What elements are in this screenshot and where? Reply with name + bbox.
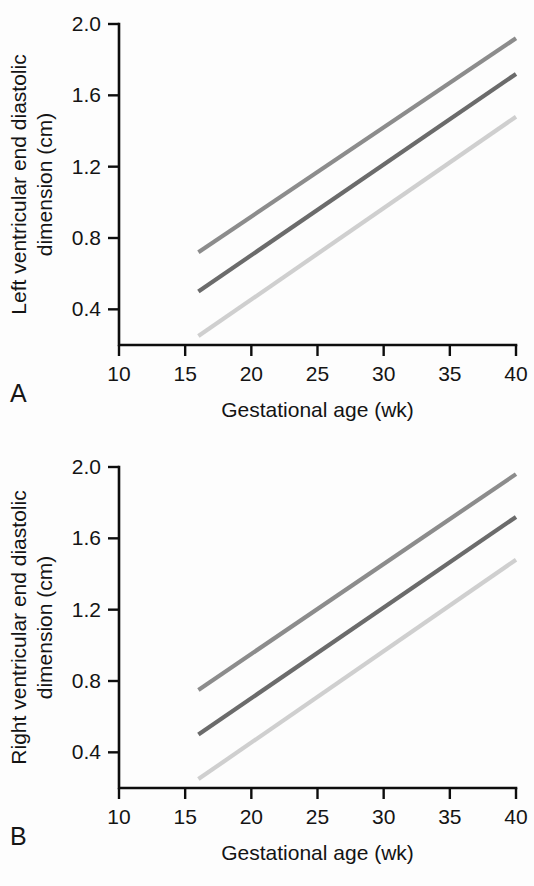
x-axis-title: Gestational age (wk) (221, 398, 414, 421)
y-tick-label: 2.0 (72, 12, 101, 35)
x-tick-label: 15 (173, 362, 196, 385)
x-tick-label: 10 (107, 805, 130, 828)
data-line-lower-limit (198, 560, 516, 779)
x-tick-label: 20 (240, 362, 263, 385)
y-tick-label: 0.4 (72, 297, 102, 320)
axis-spine (119, 24, 516, 345)
chart-b-svg: 0.40.81.21.62.010152025303540Gestational… (0, 443, 534, 886)
x-tick-label: 30 (372, 805, 395, 828)
x-tick-label: 25 (306, 362, 329, 385)
x-tick-label: 35 (438, 805, 461, 828)
x-tick-label: 30 (372, 362, 395, 385)
y-axis-title-line2: dimension (cm) (33, 556, 56, 700)
x-tick-label: 10 (107, 362, 130, 385)
data-line-upper-limit (198, 38, 516, 252)
y-tick-label: 1.6 (72, 526, 101, 549)
y-tick-label: 0.4 (72, 740, 102, 763)
y-tick-label: 1.6 (72, 83, 101, 106)
data-line-upper-limit (198, 474, 516, 690)
x-tick-label: 35 (438, 362, 461, 385)
x-tick-label: 40 (504, 805, 527, 828)
y-tick-label: 1.2 (72, 155, 101, 178)
panel-letter-b: B (10, 824, 27, 849)
data-line-lower-limit (198, 117, 516, 336)
y-tick-label: 0.8 (72, 669, 101, 692)
y-axis-title-line1: Right ventricular end diastolic (7, 490, 30, 764)
x-axis-title: Gestational age (wk) (221, 841, 414, 864)
x-tick-label: 25 (306, 805, 329, 828)
y-tick-label: 2.0 (72, 455, 101, 478)
panel-letter-a: A (10, 381, 27, 406)
chart-panel-b: 0.40.81.21.62.010152025303540Gestational… (0, 443, 534, 886)
y-tick-label: 1.2 (72, 598, 101, 621)
y-axis-title-line1: Left ventricular end diastolic (7, 54, 30, 314)
y-tick-label: 0.8 (72, 226, 101, 249)
x-tick-label: 15 (173, 805, 196, 828)
chart-panel-a: 0.40.81.21.62.010152025303540Gestational… (0, 0, 534, 443)
data-line-mean (198, 517, 516, 735)
data-line-mean (198, 74, 516, 292)
y-axis-title-line2: dimension (cm) (33, 113, 56, 257)
x-tick-label: 40 (504, 362, 527, 385)
chart-a-svg: 0.40.81.21.62.010152025303540Gestational… (0, 0, 534, 443)
figure-container: 0.40.81.21.62.010152025303540Gestational… (0, 0, 534, 886)
x-tick-label: 20 (240, 805, 263, 828)
